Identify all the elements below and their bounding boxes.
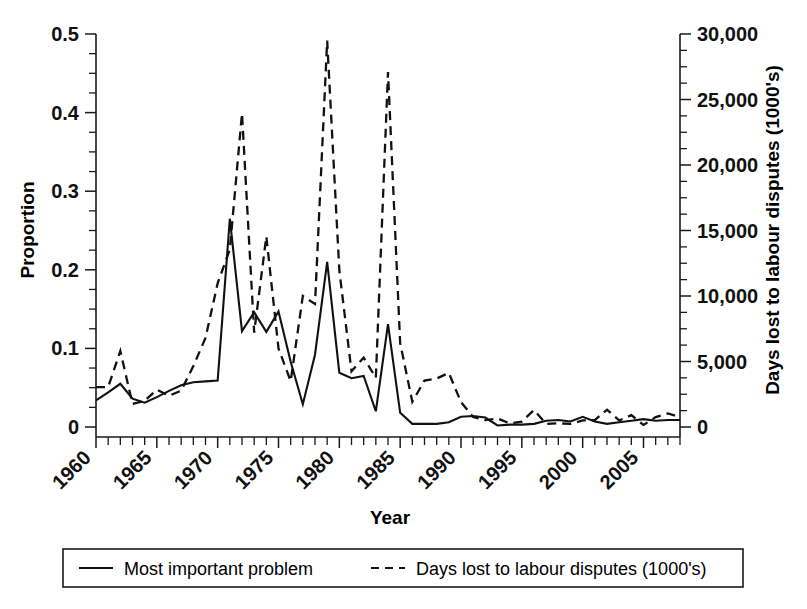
legend-label-1: Days lost to labour disputes (1000's) xyxy=(416,559,707,579)
chart-figure: 00.10.20.30.40.5 05,00010,00015,00020,00… xyxy=(0,0,807,609)
x-ticklabel-2: 1970 xyxy=(169,446,216,493)
x-axis-minor-ticks xyxy=(108,437,680,445)
y-ticklabel-5: 0.5 xyxy=(51,23,79,45)
plot-background xyxy=(96,34,680,427)
x-ticklabel-5: 1985 xyxy=(352,446,399,493)
x-ticklabel-3: 1975 xyxy=(230,446,277,493)
y2-ticklabel-0: 0 xyxy=(697,416,708,438)
y2-ticklabel-1: 5,000 xyxy=(697,351,747,373)
x-ticklabel-0: 1960 xyxy=(48,446,95,493)
legend-label-0: Most important problem xyxy=(124,559,313,579)
x-ticklabel-6: 1990 xyxy=(413,446,460,493)
y-ticklabel-0: 0 xyxy=(68,416,79,438)
x-axis-title: Year xyxy=(370,507,411,528)
y2-axis-title: Days lost to labour disputes (1000's) xyxy=(762,65,783,395)
x-ticklabel-8: 2000 xyxy=(534,446,581,493)
y2-ticklabel-3: 15,000 xyxy=(697,220,758,242)
y-ticklabel-2: 0.2 xyxy=(51,259,79,281)
chart-legend: Most important problem Days lost to labo… xyxy=(63,549,743,587)
y2-axis-major-ticks xyxy=(680,34,691,427)
x-axis-major-ticks xyxy=(96,437,644,448)
y-axis-tick-labels: 00.10.20.30.40.5 xyxy=(51,23,80,438)
y-ticklabel-3: 0.3 xyxy=(51,180,79,202)
y-ticklabel-1: 0.1 xyxy=(51,337,79,359)
x-ticklabel-7: 1995 xyxy=(474,446,521,493)
y2-ticklabel-5: 25,000 xyxy=(697,89,758,111)
y-ticklabel-4: 0.4 xyxy=(51,102,80,124)
y2-ticklabel-6: 30,000 xyxy=(697,23,758,45)
y2-axis-tick-labels: 05,00010,00015,00020,00025,00030,000 xyxy=(697,23,758,438)
y-axis-minor-ticks xyxy=(89,54,96,408)
x-ticklabel-1: 1965 xyxy=(109,446,156,493)
x-axis-tick-labels: 1960196519701975198019851990199520002005 xyxy=(48,446,643,493)
x-ticklabel-9: 2005 xyxy=(595,446,642,493)
y-axis-title: Proportion xyxy=(17,181,38,278)
line-chart: 00.10.20.30.40.5 05,00010,00015,00020,00… xyxy=(0,0,807,609)
y2-ticklabel-2: 10,000 xyxy=(697,285,758,307)
y2-ticklabel-4: 20,000 xyxy=(697,154,758,176)
x-ticklabel-4: 1980 xyxy=(291,446,338,493)
